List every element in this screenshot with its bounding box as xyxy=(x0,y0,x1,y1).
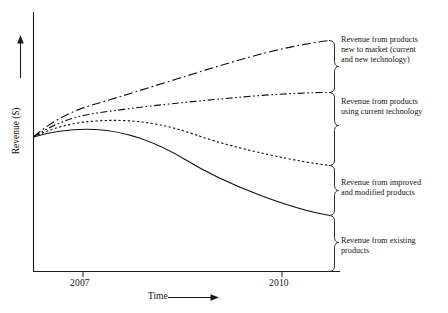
x-axis-title: Time xyxy=(148,291,168,301)
x-tick-label-2007: 2007 xyxy=(70,278,90,288)
x-tick-label-2010: 2010 xyxy=(269,278,289,288)
brace-existing-products xyxy=(329,216,339,272)
series-line-existing-products xyxy=(34,129,331,215)
x-axis-arrow xyxy=(168,294,219,300)
annotation-improved-products: Revenue from improved and modified produ… xyxy=(341,178,445,198)
brace-current-technology xyxy=(329,93,339,166)
annotation-current-technology: Revenue from products using current tech… xyxy=(341,97,445,117)
chart-figure: Revenue ($) Time 2007 2010 Revenue from … xyxy=(0,0,448,313)
brace-improved-products xyxy=(329,166,339,216)
annotation-existing-products: Revenue from existing products xyxy=(341,236,445,256)
series-line-improved-products xyxy=(34,120,331,165)
brace-new-to-market xyxy=(329,41,339,93)
y-axis-arrow xyxy=(17,35,24,78)
y-axis-title: Revenue ($) xyxy=(11,101,21,161)
annotation-new-to-market: Revenue from products new to market (cur… xyxy=(341,35,445,66)
series-line-current-technology xyxy=(34,93,331,138)
